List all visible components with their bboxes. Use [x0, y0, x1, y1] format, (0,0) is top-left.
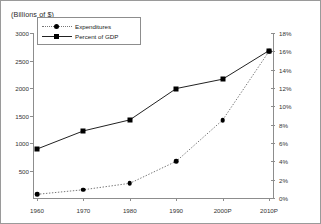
x-tick-mark	[130, 198, 131, 201]
x-tick-mark	[223, 198, 224, 201]
series-lines	[33, 33, 273, 198]
x-tick-label: 1960	[17, 207, 57, 214]
chart-figure: (Billions of $) 30002500200015001000500 …	[0, 0, 321, 224]
dotted-line-round-marker-icon	[42, 21, 72, 31]
x-tick-mark	[83, 198, 84, 201]
data-point-marker	[174, 86, 179, 91]
x-tick-label: 2000P	[203, 207, 243, 214]
right-tick-label: 0%	[279, 195, 309, 202]
legend-label-expenditures: Expenditures	[72, 23, 111, 30]
plot-area: 30002500200015001000500 18%16%14%12%10%8…	[33, 33, 273, 198]
data-point-marker	[127, 117, 132, 122]
right-tick-label: 8%	[279, 121, 309, 128]
left-tick-label: 1500	[0, 112, 29, 119]
right-tick-label: 2%	[279, 176, 309, 183]
chart-legend: Expenditures Percent of GDP	[37, 17, 141, 45]
right-tick-label: 14%	[279, 66, 309, 73]
x-tick-mark	[37, 198, 38, 201]
legend-label-percent-of-gdp: Percent of GDP	[72, 33, 118, 40]
legend-item-percent-of-gdp: Percent of GDP	[42, 31, 136, 41]
data-point-marker	[220, 77, 225, 82]
right-tick-label: 18%	[279, 30, 309, 37]
right-tick-mark	[271, 198, 275, 199]
x-tick-label: 1970	[63, 207, 103, 214]
data-point-marker	[127, 181, 132, 186]
data-point-marker	[35, 192, 40, 197]
data-point-marker	[81, 187, 86, 192]
data-point-marker	[174, 159, 179, 164]
x-tick-label: 1980	[110, 207, 150, 214]
solid-line-square-marker-icon	[42, 31, 72, 41]
right-tick-label: 6%	[279, 140, 309, 147]
data-point-marker	[267, 48, 272, 53]
x-tick-label: 1990	[156, 207, 196, 214]
percent-of-gdp-line	[37, 51, 269, 149]
left-tick-label: 1000	[0, 140, 29, 147]
x-axis-line	[33, 198, 274, 199]
left-tick-label: 2500	[0, 57, 29, 64]
left-tick-label: 500	[0, 167, 29, 174]
expenditures-line	[37, 51, 269, 194]
left-tick-label: 2000	[0, 85, 29, 92]
right-tick-label: 10%	[279, 103, 309, 110]
right-axis-line	[273, 33, 274, 198]
data-point-marker	[35, 147, 40, 152]
x-tick-mark	[176, 198, 177, 201]
x-tick-mark	[269, 198, 270, 201]
data-point-marker	[81, 128, 86, 133]
x-tick-label: 2010P	[249, 207, 289, 214]
data-point-marker	[220, 118, 225, 123]
right-tick-label: 4%	[279, 158, 309, 165]
right-tick-label: 16%	[279, 48, 309, 55]
right-tick-label: 12%	[279, 85, 309, 92]
left-tick-label: 3000	[0, 30, 29, 37]
legend-item-expenditures: Expenditures	[42, 21, 136, 31]
